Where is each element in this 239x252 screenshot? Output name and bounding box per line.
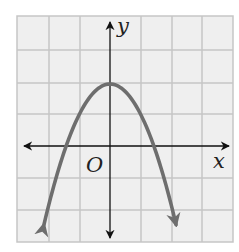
y-axis-label: y [116,14,130,38]
parabola-graph: y x O [0,0,239,252]
x-axis-label: x [213,149,225,173]
origin-label: O [86,153,103,177]
